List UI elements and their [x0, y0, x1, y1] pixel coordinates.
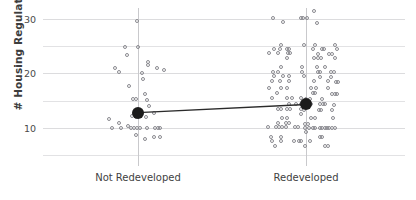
- x-category-label: Redeveloped: [226, 172, 386, 183]
- scatter-chart: # Housing Regulations 102030 Not Redevel…: [0, 0, 416, 200]
- y-tick-label: 30: [8, 13, 36, 24]
- plot-area: [43, 8, 405, 166]
- mean-marker: [132, 107, 144, 119]
- mean-connector-line: [43, 8, 405, 166]
- y-tick-label: 20: [8, 68, 36, 79]
- x-category-label: Not Redeveloped: [58, 172, 218, 183]
- y-tick-label: 10: [8, 122, 36, 133]
